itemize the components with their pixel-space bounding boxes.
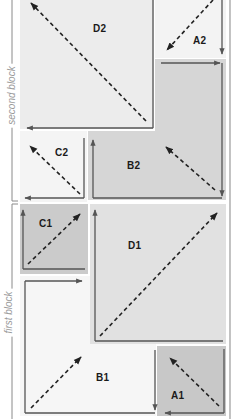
label-b1: B1 xyxy=(96,372,109,383)
region-a1-lines xyxy=(165,349,224,413)
region-b2-lines xyxy=(93,63,222,198)
bracket-label-first-block: first block xyxy=(3,288,14,336)
label-c1: C1 xyxy=(39,218,52,229)
label-d2: D2 xyxy=(93,23,106,34)
region-b1-lines xyxy=(25,281,155,413)
bracket-label-second-block: second block xyxy=(6,63,17,127)
label-d1: D1 xyxy=(128,240,141,251)
region-c1-lines xyxy=(23,210,85,269)
diagram-lines xyxy=(0,0,236,419)
label-b2: B2 xyxy=(127,160,140,171)
region-d2-lines xyxy=(27,0,153,128)
label-a1: A1 xyxy=(171,390,184,401)
region-d1-lines xyxy=(95,210,223,341)
label-a2: A2 xyxy=(193,35,206,46)
label-c2: C2 xyxy=(55,147,68,158)
